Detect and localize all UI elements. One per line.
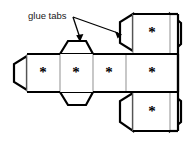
face-mark: * bbox=[148, 64, 156, 80]
cube-net-svg: * * * * * * glue tabs bbox=[0, 0, 195, 141]
glue-tab-top-right-left bbox=[120, 14, 133, 51]
glue-tab-upper-middle bbox=[60, 41, 93, 54]
face-mark: * bbox=[72, 64, 80, 80]
glue-tabs-label: glue tabs bbox=[28, 10, 67, 21]
glue-tab-bottom-right-left bbox=[120, 93, 133, 131]
cube-net-diagram: * * * * * * glue tabs bbox=[0, 0, 195, 141]
glue-tab-left-edge bbox=[14, 56, 27, 90]
face-mark: * bbox=[105, 64, 113, 80]
glue-tab-lower-middle bbox=[60, 92, 93, 105]
face-mark: * bbox=[148, 24, 156, 40]
face-mark: * bbox=[39, 64, 47, 80]
face-mark: * bbox=[148, 103, 156, 119]
